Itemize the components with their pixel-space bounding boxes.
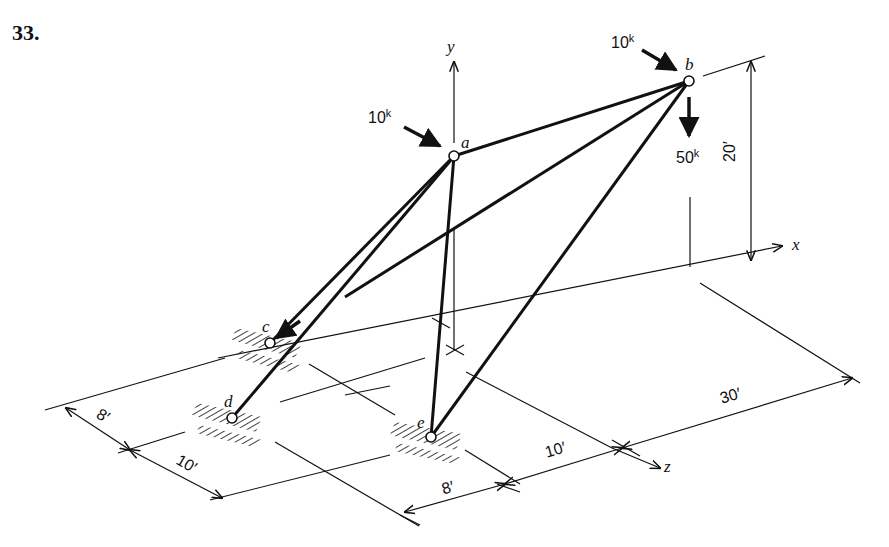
space-truss-diagram: [0, 0, 889, 547]
node-label-b: b: [685, 56, 694, 73]
x-axis-label: x: [792, 236, 800, 253]
joint-b: [684, 76, 694, 86]
member-ab: [454, 81, 689, 156]
member-ae: [431, 156, 454, 437]
joints: [227, 76, 694, 442]
z-axis-label: z: [664, 458, 671, 475]
joint-e: [426, 432, 436, 442]
ground-lines: [45, 56, 860, 526]
joint-c: [265, 338, 275, 348]
member-bc: [345, 81, 689, 297]
load-arrow-a: [404, 127, 440, 146]
node-label-c: c: [262, 318, 270, 335]
problem-number: 33.: [12, 20, 40, 46]
load-label-b-vertical: 50k: [676, 148, 699, 166]
z-axis: [612, 448, 660, 468]
joint-a: [449, 151, 459, 161]
load-arrow-b-horizontal: [642, 50, 676, 70]
member-ac: [270, 156, 454, 343]
node-label-a: a: [461, 134, 470, 151]
joint-d: [227, 413, 237, 423]
node-label-e: e: [417, 414, 425, 431]
member-ad: [232, 160, 451, 418]
load-label-a: 10k: [368, 108, 391, 126]
node-label-d: d: [224, 393, 233, 410]
y-axis-label: y: [447, 38, 455, 55]
member-be: [431, 81, 689, 437]
support-e: [390, 422, 462, 464]
dim-height-20: 20′: [722, 141, 738, 162]
load-label-b-horizontal: 10k: [611, 33, 634, 51]
